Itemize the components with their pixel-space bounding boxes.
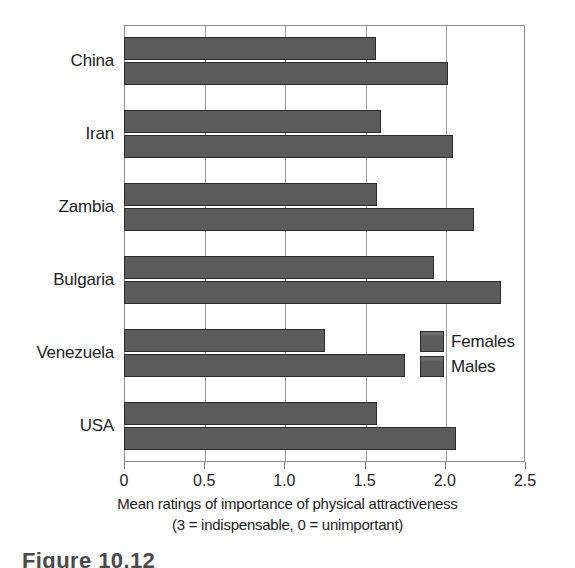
y-axis-label-china: China: [4, 52, 114, 69]
x-tick-mark: [284, 462, 285, 469]
bar-china-females: [124, 37, 376, 60]
legend-item-males: Males: [420, 355, 515, 378]
y-axis-label-bulgaria: Bulgaria: [4, 271, 114, 288]
bar-venezuela-males: [124, 354, 405, 377]
chart-legend: Females Males: [420, 330, 515, 378]
legend-label-females: Females: [451, 333, 515, 350]
bar-bulgaria-males: [124, 281, 501, 304]
bar-usa-males: [124, 427, 456, 450]
plot-area: [124, 25, 525, 462]
y-axis-label-venezuela: Venezuela: [4, 344, 114, 361]
bar-china-males: [124, 62, 448, 85]
bar-zambia-females: [124, 183, 377, 206]
gridline: [285, 26, 286, 461]
x-tick-mark: [365, 462, 366, 469]
figure-container: 00.51.01.52.02.5ChinaIranZambiaBulgariaV…: [0, 0, 575, 568]
x-tick-label: 1.0: [254, 472, 314, 490]
gridline: [446, 26, 447, 461]
legend-item-females: Females: [420, 330, 515, 353]
x-axis-label: Mean ratings of importance of physical a…: [0, 495, 575, 512]
x-tick-label: 0: [94, 472, 154, 490]
gridline: [366, 26, 367, 461]
x-tick-mark: [204, 462, 205, 469]
x-tick-label: 1.5: [335, 472, 395, 490]
y-axis-label-zambia: Zambia: [4, 198, 114, 215]
bar-usa-females: [124, 402, 377, 425]
legend-swatch-females: [420, 331, 444, 352]
x-tick-label: 2.5: [495, 472, 555, 490]
gridline: [205, 26, 206, 461]
y-axis-label-iran: Iran: [4, 125, 114, 142]
bar-zambia-males: [124, 208, 474, 231]
x-tick-mark: [445, 462, 446, 469]
x-tick-label: 0.5: [174, 472, 234, 490]
x-axis-label-sublabel: (3 = indispensable, 0 = unimportant): [0, 516, 575, 533]
bar-iran-females: [124, 110, 381, 133]
bar-bulgaria-females: [124, 256, 434, 279]
x-tick-mark: [525, 462, 526, 469]
y-axis-label-usa: USA: [4, 417, 114, 434]
bar-iran-males: [124, 135, 453, 158]
legend-swatch-males: [420, 356, 444, 377]
x-tick-label: 2.0: [415, 472, 475, 490]
bar-venezuela-females: [124, 329, 325, 352]
figure-caption: Figure 10.12: [22, 548, 155, 568]
legend-label-males: Males: [451, 358, 495, 375]
x-tick-mark: [124, 462, 125, 469]
